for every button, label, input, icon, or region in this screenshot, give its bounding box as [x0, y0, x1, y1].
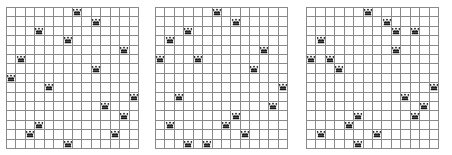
- board-cell[interactable]: [335, 64, 344, 73]
- board-cell[interactable]: [364, 74, 373, 83]
- board-cell[interactable]: [401, 74, 410, 83]
- board-cell[interactable]: [64, 46, 73, 55]
- board-cell[interactable]: [373, 36, 382, 45]
- board-cell[interactable]: [260, 111, 269, 120]
- board-cell[interactable]: [35, 130, 44, 139]
- board-cell[interactable]: [45, 74, 54, 83]
- board-cell[interactable]: [203, 93, 212, 102]
- board-cell[interactable]: [35, 121, 44, 130]
- board-cell[interactable]: [354, 111, 363, 120]
- board-cell[interactable]: [165, 46, 174, 55]
- board-cell[interactable]: [130, 8, 139, 17]
- board-cell[interactable]: [231, 36, 240, 45]
- board-cell[interactable]: [175, 46, 184, 55]
- board-cell[interactable]: [316, 74, 325, 83]
- board-cell[interactable]: [184, 46, 193, 55]
- board-cell[interactable]: [111, 36, 120, 45]
- board-cell[interactable]: [345, 8, 354, 17]
- board-cell[interactable]: [130, 111, 139, 120]
- board-cell[interactable]: [64, 102, 73, 111]
- board-cell[interactable]: [175, 102, 184, 111]
- board-cell[interactable]: [382, 55, 391, 64]
- board-cell[interactable]: [411, 17, 420, 26]
- board-cell[interactable]: [92, 102, 101, 111]
- board-cell[interactable]: [16, 17, 25, 26]
- board-cell[interactable]: [73, 8, 82, 17]
- board-cell[interactable]: [260, 102, 269, 111]
- board-cell[interactable]: [316, 17, 325, 26]
- board-cell[interactable]: [382, 64, 391, 73]
- board-cell[interactable]: [411, 83, 420, 92]
- board-cell[interactable]: [250, 17, 259, 26]
- board-cell[interactable]: [213, 111, 222, 120]
- board-cell[interactable]: [111, 74, 120, 83]
- board-cell[interactable]: [269, 83, 278, 92]
- board-cell[interactable]: [64, 17, 73, 26]
- board-cell[interactable]: [213, 55, 222, 64]
- board-cell[interactable]: [373, 74, 382, 83]
- board-cell[interactable]: [156, 8, 165, 17]
- board-cell[interactable]: [420, 27, 429, 36]
- board-cell[interactable]: [279, 55, 288, 64]
- board-cell[interactable]: [7, 102, 16, 111]
- board-cell[interactable]: [260, 46, 269, 55]
- board-cell[interactable]: [364, 8, 373, 17]
- board-cell[interactable]: [45, 46, 54, 55]
- board-cell[interactable]: [222, 83, 231, 92]
- board-cell[interactable]: [156, 83, 165, 92]
- board-cell[interactable]: [382, 102, 391, 111]
- board-cell[interactable]: [222, 130, 231, 139]
- board-cell[interactable]: [92, 36, 101, 45]
- board-cell[interactable]: [101, 17, 110, 26]
- board-cell[interactable]: [7, 93, 16, 102]
- board-cell[interactable]: [420, 121, 429, 130]
- board-cell[interactable]: [203, 36, 212, 45]
- board-cell[interactable]: [26, 83, 35, 92]
- board-cell[interactable]: [184, 140, 193, 149]
- board-cell[interactable]: [326, 55, 335, 64]
- board-cell[interactable]: [16, 8, 25, 17]
- board-cell[interactable]: [213, 64, 222, 73]
- board-cell[interactable]: [35, 8, 44, 17]
- board-cell[interactable]: [82, 27, 91, 36]
- board-cell[interactable]: [382, 8, 391, 17]
- board-cell[interactable]: [345, 46, 354, 55]
- board-cell[interactable]: [279, 46, 288, 55]
- board-cell[interactable]: [250, 93, 259, 102]
- board-cell[interactable]: [420, 36, 429, 45]
- board-cell[interactable]: [269, 36, 278, 45]
- board-cell[interactable]: [231, 8, 240, 17]
- board-cell[interactable]: [156, 74, 165, 83]
- board-cell[interactable]: [307, 36, 316, 45]
- board-cell[interactable]: [420, 46, 429, 55]
- board-cell[interactable]: [279, 121, 288, 130]
- board-cell[interactable]: [326, 121, 335, 130]
- board-cell[interactable]: [430, 93, 439, 102]
- board-cell[interactable]: [82, 83, 91, 92]
- board-cell[interactable]: [307, 8, 316, 17]
- board-cell[interactable]: [222, 17, 231, 26]
- board-cell[interactable]: [92, 8, 101, 17]
- board-cell[interactable]: [101, 8, 110, 17]
- board-cell[interactable]: [382, 140, 391, 149]
- board-cell[interactable]: [111, 83, 120, 92]
- board-cell[interactable]: [130, 83, 139, 92]
- board-cell[interactable]: [16, 36, 25, 45]
- board-cell[interactable]: [411, 93, 420, 102]
- board-cell[interactable]: [203, 17, 212, 26]
- board-cell[interactable]: [54, 55, 63, 64]
- board-cell[interactable]: [401, 111, 410, 120]
- board-cell[interactable]: [111, 121, 120, 130]
- board-cell[interactable]: [401, 55, 410, 64]
- board-cell[interactable]: [401, 130, 410, 139]
- board-cell[interactable]: [82, 93, 91, 102]
- board-cell[interactable]: [130, 102, 139, 111]
- board-cell[interactable]: [213, 27, 222, 36]
- board-cell[interactable]: [335, 27, 344, 36]
- board-cell[interactable]: [420, 102, 429, 111]
- board-cell[interactable]: [354, 46, 363, 55]
- board-cell[interactable]: [54, 46, 63, 55]
- board-1[interactable]: [6, 7, 139, 149]
- board-cell[interactable]: [82, 121, 91, 130]
- board-cell[interactable]: [260, 140, 269, 149]
